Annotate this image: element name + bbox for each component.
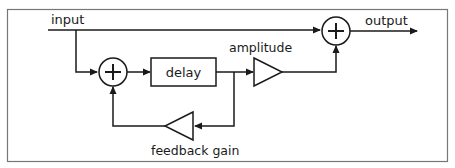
amplitude-label: amplitude	[229, 40, 292, 55]
delay-label: delay	[166, 65, 202, 80]
output-label: output	[365, 13, 408, 28]
diagram-canvas: input delay amplitude feedback gain outp…	[0, 0, 455, 168]
feedback-gain-label: feedback gain	[151, 143, 239, 158]
amplitude-gain-triangle	[254, 58, 282, 86]
feedback-gain-triangle	[165, 112, 193, 140]
feedback-summer	[99, 58, 127, 86]
input-to-feedback-summer-wire	[76, 30, 97, 72]
feedback-to-summer-wire	[113, 87, 165, 126]
diagram-frame	[8, 10, 448, 162]
output-summer	[322, 17, 350, 45]
input-label: input	[51, 12, 84, 27]
